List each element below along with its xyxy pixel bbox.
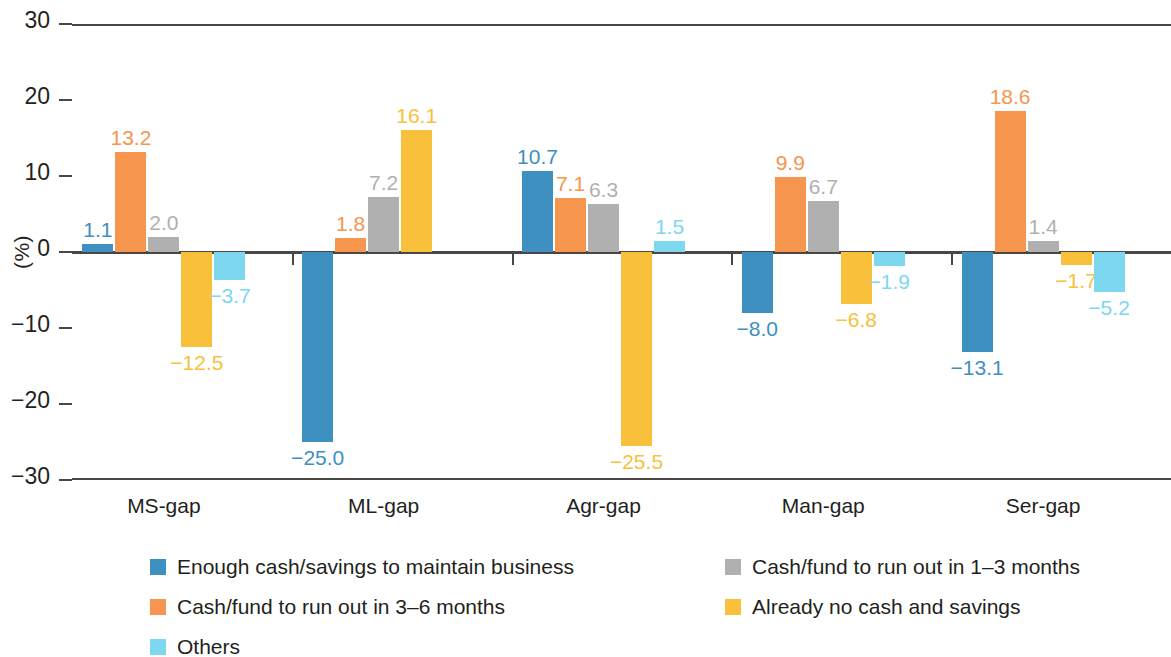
- bar-chart-figure: (%) 3020100−10−20−301.113.22.0−12.5−3.7−…: [0, 0, 1171, 657]
- bar-value-label: 1.4: [1028, 216, 1057, 237]
- legend-swatch-icon: [725, 599, 741, 615]
- bar-value-label: 10.7: [517, 146, 558, 167]
- bar-value-label: 7.2: [369, 172, 398, 193]
- bar: [401, 130, 432, 252]
- legend-swatch-icon: [725, 559, 741, 575]
- bar: [621, 252, 652, 446]
- bar: [874, 252, 905, 266]
- bar-value-label: −25.5: [610, 451, 663, 472]
- bar-value-label: 6.3: [589, 179, 618, 200]
- legend-item[interactable]: Cash/fund to run out in 1–3 months: [725, 556, 1080, 577]
- bar-value-label: 13.2: [110, 127, 151, 148]
- bar: [302, 252, 333, 442]
- y-axis-tick-label: −10: [11, 313, 50, 336]
- legend-label: Cash/fund to run out in 3–6 months: [177, 596, 505, 617]
- y-axis-tick-label: 30: [24, 9, 50, 32]
- x-axis-tick: [951, 252, 953, 265]
- legend-label: Already no cash and savings: [752, 596, 1021, 617]
- x-axis-category-label: MS-gap: [127, 494, 201, 518]
- y-axis-tick-label: −30: [11, 465, 50, 488]
- bar: [1028, 241, 1059, 252]
- bar: [841, 252, 872, 304]
- y-axis-tick: 10: [59, 175, 72, 177]
- bar: [808, 201, 839, 252]
- y-axis-tick: 20: [59, 99, 72, 101]
- bar: [1094, 252, 1125, 292]
- bar-value-label: 9.9: [776, 152, 805, 173]
- bar: [995, 111, 1026, 252]
- plot-area: 3020100−10−20−301.113.22.0−12.5−3.7−25.0…: [72, 24, 1171, 480]
- bar: [335, 238, 366, 252]
- bar-value-label: 1.5: [655, 216, 684, 237]
- y-axis-tick-label: 20: [24, 85, 50, 108]
- x-axis-tick: [731, 252, 733, 265]
- bar-value-label: −1.7: [1055, 270, 1096, 291]
- bar: [654, 241, 685, 252]
- bar: [214, 252, 245, 280]
- legend-item[interactable]: Enough cash/savings to maintain business: [150, 556, 574, 577]
- y-axis-tick-label: 0: [37, 237, 50, 260]
- bar-value-label: 6.7: [809, 176, 838, 197]
- y-axis-tick: 30: [59, 23, 72, 25]
- legend-swatch-icon: [150, 559, 166, 575]
- y-axis-tick: −10: [59, 327, 72, 329]
- bar-value-label: 16.1: [396, 105, 437, 126]
- bar: [368, 197, 399, 252]
- bar-value-label: 18.6: [990, 86, 1031, 107]
- bar-value-label: −6.8: [836, 309, 877, 330]
- y-axis-tick-label: −20: [11, 389, 50, 412]
- x-axis-category-label: Ser-gap: [1006, 494, 1081, 518]
- bar-value-label: 7.1: [556, 173, 585, 194]
- legend-item[interactable]: Already no cash and savings: [725, 596, 1021, 617]
- x-axis-tick: [292, 252, 294, 265]
- legend-item[interactable]: Others: [150, 636, 240, 657]
- legend-item[interactable]: Cash/fund to run out in 3–6 months: [150, 596, 505, 617]
- bar-value-label: −8.0: [737, 318, 778, 339]
- plot-top-border: [72, 24, 1171, 26]
- bar-value-label: −13.1: [951, 357, 1004, 378]
- bar: [115, 152, 146, 252]
- bar-value-label: −12.5: [170, 352, 223, 373]
- y-axis-label: (%): [10, 232, 34, 272]
- legend-swatch-icon: [150, 639, 166, 655]
- x-axis-category-label: ML-gap: [348, 494, 419, 518]
- bar-value-label: 1.8: [336, 213, 365, 234]
- bar: [742, 252, 773, 313]
- bar-value-label: 2.0: [149, 212, 178, 233]
- bar: [588, 204, 619, 252]
- bar-value-label: −3.7: [209, 285, 250, 306]
- bar: [775, 177, 806, 252]
- bar-value-label: 1.1: [83, 219, 112, 240]
- bar: [962, 252, 993, 352]
- bar-value-label: −25.0: [291, 447, 344, 468]
- y-axis-tick-label: 10: [24, 161, 50, 184]
- x-axis-category-label: Agr-gap: [566, 494, 641, 518]
- legend-label: Cash/fund to run out in 1–3 months: [752, 556, 1080, 577]
- bar: [181, 252, 212, 347]
- bar: [1061, 252, 1092, 265]
- x-axis-category-label: Man-gap: [782, 494, 865, 518]
- y-axis-tick: 0: [59, 251, 72, 253]
- legend-label: Enough cash/savings to maintain business: [177, 556, 574, 577]
- y-axis-tick: −30: [59, 479, 72, 481]
- bar: [522, 171, 553, 252]
- bar: [82, 244, 113, 252]
- y-axis-tick: −20: [59, 403, 72, 405]
- chart-legend: Enough cash/savings to maintain business…: [0, 548, 1171, 657]
- bar-value-label: −5.2: [1088, 297, 1129, 318]
- bar-value-label: −1.9: [869, 271, 910, 292]
- bar: [555, 198, 586, 252]
- legend-label: Others: [177, 636, 240, 657]
- plot-bottom-border: [72, 478, 1171, 480]
- bar: [148, 237, 179, 252]
- x-axis-tick: [512, 252, 514, 265]
- legend-swatch-icon: [150, 599, 166, 615]
